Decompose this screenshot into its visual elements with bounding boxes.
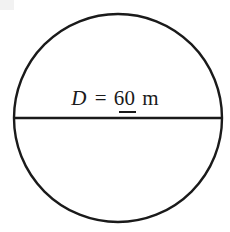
geometry-figure: D=60m: [0, 0, 230, 232]
circle-diagram-canvas: [0, 0, 230, 232]
